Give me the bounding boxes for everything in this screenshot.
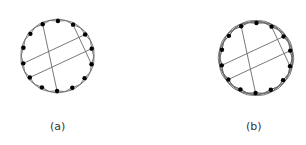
graph-node (227, 34, 231, 38)
edge-chord (241, 26, 255, 93)
graph-node (288, 64, 292, 68)
graph-node (239, 24, 243, 28)
graph-node (281, 34, 285, 38)
edge-arc (228, 79, 255, 93)
edge-arc (256, 22, 283, 36)
graph-node (220, 63, 224, 67)
graph-node (254, 21, 258, 25)
graph-node (269, 24, 273, 28)
graph-node (269, 88, 273, 92)
graph-node (226, 77, 230, 81)
graph-node (281, 78, 285, 82)
edge-chord (222, 37, 284, 66)
graph-node (220, 48, 224, 52)
graph-panel-b: (b) (0, 0, 306, 145)
graph-node (288, 48, 292, 52)
graph-node (253, 91, 257, 95)
edge-chord (228, 51, 290, 80)
panel-label-b: (b) (246, 120, 262, 133)
circulant-graph-b (0, 0, 306, 110)
graph-node (238, 87, 242, 91)
